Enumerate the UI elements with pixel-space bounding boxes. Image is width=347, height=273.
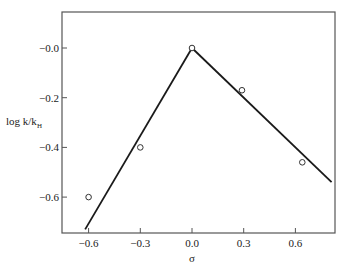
x-tick-label: 0.6 xyxy=(289,237,303,249)
y-tick-label: −0.0 xyxy=(39,42,59,54)
x-tick-label: 0.0 xyxy=(185,237,199,249)
chart: −0.6−0.30.00.30.6 −0.0−0.2−0.4−0.6 σ log… xyxy=(0,0,347,273)
y-axis-label-main: log k/k xyxy=(6,115,37,127)
x-axis-ticks: −0.6−0.30.00.30.6 xyxy=(79,228,303,249)
x-tick-label: −0.3 xyxy=(130,237,150,249)
y-tick-label: −0.4 xyxy=(39,141,59,153)
data-point-marker xyxy=(189,45,195,51)
data-point-marker xyxy=(239,87,245,93)
y-axis-label: log k/kH xyxy=(6,115,42,130)
data-point-marker xyxy=(86,194,92,200)
data-point-marker xyxy=(299,160,305,166)
fit-line xyxy=(192,48,332,182)
y-tick-label: −0.6 xyxy=(39,191,59,203)
x-tick-label: −0.6 xyxy=(79,237,99,249)
fit-line xyxy=(85,48,192,229)
fit-lines xyxy=(85,48,331,229)
y-axis-ticks: −0.0−0.2−0.4−0.6 xyxy=(39,42,67,203)
x-tick-label: 0.3 xyxy=(237,237,251,249)
x-axis-label: σ xyxy=(189,252,195,264)
data-points xyxy=(86,45,305,200)
y-tick-label: −0.2 xyxy=(39,92,59,104)
data-point-marker xyxy=(138,145,144,151)
y-axis-label-subscript: H xyxy=(37,122,42,130)
